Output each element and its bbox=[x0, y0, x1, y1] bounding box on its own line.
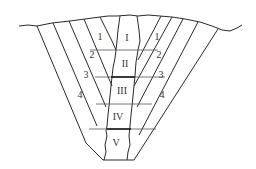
left-layer-label-2: 2 bbox=[90, 50, 95, 60]
left-layer-label-1: 1 bbox=[98, 32, 103, 42]
right-layer-label-1: 1 bbox=[155, 32, 160, 42]
right-outer-boundary bbox=[134, 29, 218, 160]
left-layer-line-1 bbox=[53, 23, 97, 126]
ground-surface-line bbox=[19, 15, 242, 31]
block-label-i: I bbox=[125, 33, 128, 43]
left-outer-boundary bbox=[37, 26, 103, 160]
right-layer-line-1 bbox=[139, 22, 198, 135]
block-label-ii: II bbox=[122, 59, 129, 69]
right-layer-label-4: 4 bbox=[160, 90, 165, 100]
center-mid-left-boundary bbox=[116, 16, 120, 50]
center-right-boundary bbox=[127, 16, 140, 160]
left-layer-label-3: 3 bbox=[84, 70, 89, 80]
block-label-iii: III bbox=[117, 86, 127, 96]
left-layer-label-4: 4 bbox=[78, 90, 83, 100]
right-layer-label-2: 2 bbox=[157, 50, 162, 60]
block-label-v: V bbox=[112, 138, 119, 148]
right-layer-label-3: 3 bbox=[159, 70, 164, 80]
v-section-diagram bbox=[0, 0, 256, 169]
block-label-iv: IV bbox=[113, 112, 124, 122]
